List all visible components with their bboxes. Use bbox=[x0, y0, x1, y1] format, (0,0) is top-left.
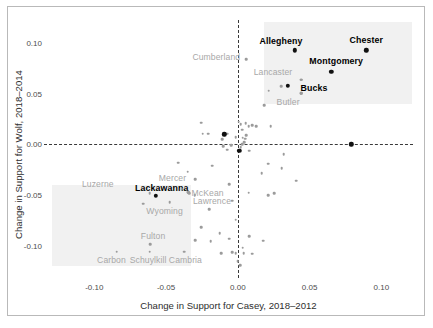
data-point bbox=[142, 202, 145, 205]
data-point bbox=[251, 124, 254, 127]
data-point bbox=[280, 85, 283, 88]
data-point bbox=[226, 133, 229, 136]
data-point bbox=[251, 252, 254, 255]
data-point bbox=[247, 125, 250, 128]
data-point bbox=[280, 167, 283, 170]
point-label: Cumberland bbox=[192, 52, 240, 62]
data-point bbox=[148, 250, 151, 253]
point-label: Cambria bbox=[169, 255, 202, 265]
data-point-highlighted bbox=[349, 142, 353, 146]
data-point bbox=[300, 92, 303, 95]
data-point bbox=[231, 251, 234, 254]
data-point bbox=[267, 90, 270, 93]
data-point bbox=[228, 183, 231, 186]
data-point bbox=[234, 136, 237, 139]
point-label: Butler bbox=[277, 97, 300, 107]
point-label: Fulton bbox=[141, 231, 166, 241]
data-point bbox=[247, 191, 250, 194]
data-point bbox=[273, 192, 276, 195]
data-point bbox=[239, 123, 242, 126]
data-point bbox=[200, 121, 203, 124]
data-point bbox=[228, 237, 231, 240]
data-point bbox=[242, 252, 245, 255]
point-label: Carbon bbox=[97, 255, 126, 265]
y-tick-label: -0.05 bbox=[24, 191, 42, 200]
data-point bbox=[181, 188, 184, 191]
scatter-plot-figure: AlleghenyChesterMontgomeryBucksLackawann… bbox=[0, 0, 433, 328]
data-point bbox=[237, 260, 240, 263]
point-label: Luzerne bbox=[82, 179, 114, 189]
data-point bbox=[267, 194, 270, 197]
data-point bbox=[234, 252, 237, 255]
data-point bbox=[208, 208, 211, 211]
data-point bbox=[263, 104, 266, 107]
horizontal-reference-line bbox=[44, 144, 413, 145]
data-point bbox=[221, 138, 224, 141]
data-point bbox=[282, 153, 285, 156]
data-point bbox=[241, 128, 244, 131]
data-point bbox=[262, 239, 265, 242]
data-point bbox=[255, 125, 258, 128]
data-point bbox=[220, 252, 223, 255]
point-label: Allegheny bbox=[259, 36, 302, 46]
y-tick-label: 0.10 bbox=[26, 39, 42, 48]
y-tick-label: 0.00 bbox=[26, 140, 42, 149]
point-label: Lancaster bbox=[254, 67, 293, 77]
data-point bbox=[300, 78, 303, 81]
data-point bbox=[245, 58, 248, 61]
y-tick-label: 0.05 bbox=[26, 89, 42, 98]
data-point-highlighted bbox=[222, 132, 226, 136]
data-point bbox=[244, 122, 247, 125]
point-label: Bucks bbox=[300, 83, 327, 93]
point-label: Mercer bbox=[159, 173, 186, 183]
x-tick-label: 0.10 bbox=[374, 283, 390, 292]
data-point bbox=[201, 133, 204, 136]
data-point bbox=[115, 250, 118, 253]
point-label: Lawrence bbox=[193, 196, 231, 206]
data-point bbox=[211, 164, 214, 167]
x-tick-label: -0.05 bbox=[157, 283, 175, 292]
data-point bbox=[186, 170, 189, 173]
data-point-highlighted bbox=[237, 148, 241, 152]
data-point bbox=[194, 178, 197, 181]
data-point bbox=[242, 246, 245, 249]
data-point bbox=[248, 149, 251, 152]
data-point bbox=[194, 239, 197, 242]
data-point bbox=[226, 148, 229, 151]
data-point bbox=[149, 243, 152, 246]
data-point bbox=[295, 180, 298, 183]
plot-panel: AlleghenyChesterMontgomeryBucksLackawann… bbox=[44, 20, 413, 278]
x-axis-title: Change in Support for Casey, 2018–2012 bbox=[44, 300, 413, 311]
data-point bbox=[248, 235, 251, 238]
data-point bbox=[177, 161, 180, 164]
point-label: Montgomery bbox=[309, 56, 363, 66]
shaded-region bbox=[52, 185, 191, 266]
data-point bbox=[207, 133, 210, 136]
point-label: Wyoming bbox=[146, 206, 182, 216]
data-point bbox=[168, 201, 171, 204]
data-point bbox=[267, 162, 270, 165]
data-point bbox=[239, 264, 242, 267]
point-label: Chester bbox=[350, 35, 383, 45]
data-point bbox=[260, 172, 263, 175]
data-point bbox=[148, 192, 151, 195]
data-point bbox=[183, 250, 186, 253]
data-point bbox=[222, 145, 225, 148]
point-label: Schuylkill bbox=[130, 255, 167, 265]
data-point bbox=[230, 144, 233, 147]
x-tick-label: 0.00 bbox=[230, 283, 246, 292]
data-point bbox=[219, 232, 222, 235]
data-point bbox=[234, 219, 237, 222]
data-point bbox=[270, 125, 273, 128]
data-point bbox=[187, 191, 190, 194]
y-axis-title: Change in Support for Wolf, 2018–2014 bbox=[13, 26, 24, 284]
data-point bbox=[245, 134, 248, 137]
y-tick-label: -0.10 bbox=[24, 241, 42, 250]
data-point bbox=[200, 226, 203, 229]
x-tick-label: 0.05 bbox=[302, 283, 318, 292]
data-point bbox=[209, 240, 212, 243]
x-tick-label: -0.10 bbox=[85, 283, 103, 292]
x-axis-tick-labels: -0.10-0.050.000.050.10 bbox=[44, 283, 413, 295]
data-point bbox=[231, 199, 234, 202]
